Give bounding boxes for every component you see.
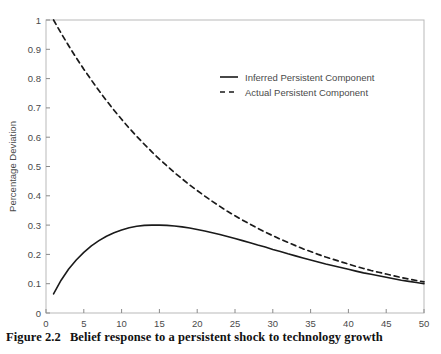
- plot-area: 05101520253035404550 00.10.20.30.40.50.6…: [7, 15, 429, 330]
- data-series-group: [54, 20, 424, 294]
- chart-legend: Inferred Persistent ComponentActual Pers…: [220, 72, 375, 98]
- x-tick-label: 10: [116, 318, 127, 329]
- y-tick-label: 0.4: [28, 190, 41, 201]
- x-tick-label: 40: [343, 318, 354, 329]
- x-tick-label: 15: [154, 318, 165, 329]
- y-tick-label: 0.3: [28, 220, 41, 231]
- figure-caption: Figure 2.2Belief response to a persisten…: [6, 330, 436, 345]
- figure-number: Figure 2.2: [6, 330, 61, 344]
- x-tick-label: 0: [43, 318, 48, 329]
- x-tick-label: 50: [419, 318, 430, 329]
- figure-container: 05101520253035404550 00.10.20.30.40.50.6…: [0, 0, 441, 354]
- y-tick-label: 0.1: [28, 278, 41, 289]
- y-axis-title: Percentage Deviation: [7, 121, 18, 212]
- y-tick-label: 0.2: [28, 249, 41, 260]
- x-tick-label: 30: [268, 318, 279, 329]
- y-tick-label: 0.5: [28, 161, 41, 172]
- x-axis-ticks: 05101520253035404550: [43, 309, 429, 329]
- x-tick-label: 25: [230, 318, 241, 329]
- y-axis-ticks: 00.10.20.30.40.50.60.70.80.91: [28, 15, 50, 319]
- legend-label: Actual Persistent Component: [245, 87, 368, 98]
- y-tick-label: 0.6: [28, 132, 41, 143]
- y-tick-label: 0: [36, 308, 41, 319]
- x-tick-label: 35: [305, 318, 316, 329]
- y-tick-label: 1: [36, 15, 41, 26]
- figure-caption-text: Belief response to a persistent shock to…: [70, 330, 383, 344]
- y-tick-label: 0.9: [28, 44, 41, 55]
- x-tick-label: 20: [192, 318, 203, 329]
- series-line-solid: [54, 225, 424, 294]
- x-tick-label: 5: [81, 318, 86, 329]
- x-tick-label: 45: [381, 318, 392, 329]
- y-tick-label: 0.8: [28, 73, 41, 84]
- legend-label: Inferred Persistent Component: [245, 72, 375, 83]
- series-line-dashed: [54, 20, 424, 282]
- chart-canvas: 05101520253035404550 00.10.20.30.40.50.6…: [0, 0, 441, 354]
- y-tick-label: 0.7: [28, 102, 41, 113]
